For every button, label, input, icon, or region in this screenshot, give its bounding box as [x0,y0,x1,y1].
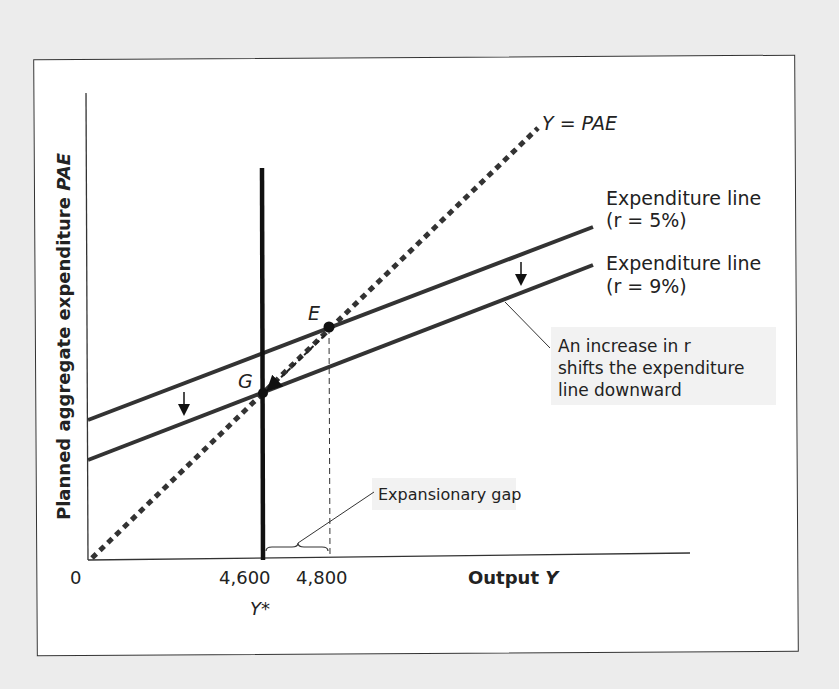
point-g-label: G [238,370,253,392]
x-tick-4600: 4,600 [219,567,271,588]
x-axis-label: Output Y [468,567,560,588]
origin-label: 0 [70,567,81,588]
x-tick-4800: 4,800 [296,567,348,588]
potential-output-label: Y* [250,598,270,619]
gap-label: Expansionary gap [378,485,521,504]
point-e-label: E [308,302,320,324]
x-axis [88,553,690,560]
note-line-3: line downward [558,380,682,400]
expenditure-line-r9 [88,265,593,460]
expenditure-line-r5 [88,227,593,420]
gap-brace [266,543,328,551]
note-line-1: An increase in r [558,336,691,356]
y-axis-label: Planned aggregate expenditure PAE [53,152,74,520]
line-r9-param: (r = 9%) [606,275,687,297]
potential-output-line [262,168,263,560]
line-r9-title: Expenditure line [606,252,761,274]
gap-leader [298,492,374,543]
line-r5-title: Expenditure line [606,187,761,209]
expenditure-diagram: Planned aggregate expenditure PAE Y = PA… [0,0,839,689]
note-line-2: shifts the expenditure [558,358,745,378]
diagonal-label: Y = PAE [542,112,617,134]
point-e-dot [324,322,335,333]
y-axis [86,93,88,560]
line-r5-param: (r = 5%) [606,209,687,231]
note-leader [505,302,550,348]
point-g-dot [258,388,268,398]
